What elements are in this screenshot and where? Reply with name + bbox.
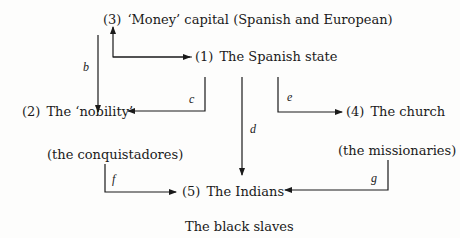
node-nobility: (2)The ‘nobility’ [22,104,133,120]
node-number: (2) [22,104,40,119]
node-church: (4)The church [346,104,445,120]
node-spanish-state: (1)The Spanish state [195,49,338,65]
node-black-slaves: The black slaves [185,219,294,235]
edge-label-f: f [112,172,115,186]
arrow-f [105,164,176,192]
node-number: (1) [195,49,213,64]
node-label: The ‘nobility’ [46,104,133,119]
node-label: (the missionaries) [338,143,456,158]
node-number: (3) [103,12,121,27]
edge-label-g: g [371,171,377,185]
node-label: (the conquistadores) [47,147,183,162]
node-label: The church [370,104,445,119]
node-conquistadores: (the conquistadores) [47,147,183,163]
node-label: ‘Money’ capital (Spanish and European) [127,12,392,27]
node-label: The Indians [206,184,284,199]
node-indians: (5)The Indians [182,184,284,200]
edge-label-b: b [83,60,89,74]
edge-label-e: e [287,90,292,104]
node-money-capital: (3)‘Money’ capital (Spanish and European… [103,12,393,28]
node-number: (5) [182,184,200,199]
node-label: The black slaves [185,219,294,234]
diagram-canvas: (3)‘Money’ capital (Spanish and European… [0,0,460,238]
node-label: The Spanish state [219,49,337,64]
edge-label-d: d [250,122,256,136]
node-number: (4) [346,104,364,119]
arrow-1-to-3 [113,27,192,57]
edge-label-c: c [189,92,194,106]
node-missionaries: (the missionaries) [338,143,456,159]
